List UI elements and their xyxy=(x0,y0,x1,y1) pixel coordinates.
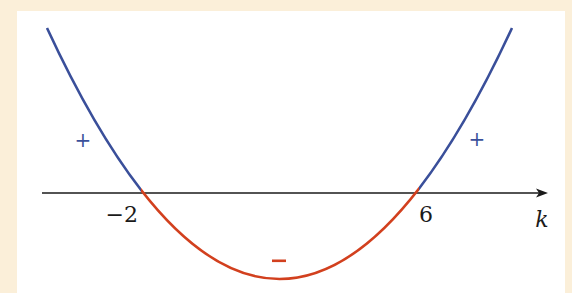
curve-positive-left xyxy=(47,28,512,279)
root-label-right: 6 xyxy=(419,202,433,227)
curve-positive-right xyxy=(47,28,512,279)
curve-negative-middle xyxy=(47,28,512,279)
axis-variable-label: k xyxy=(535,207,548,232)
sign-label-middle xyxy=(272,260,286,263)
sign-label-left: + xyxy=(75,128,92,152)
sign-diagram-chart: + + −2 6 k xyxy=(0,0,572,293)
sign-label-right: + xyxy=(469,127,486,151)
root-label-left: −2 xyxy=(106,202,138,227)
